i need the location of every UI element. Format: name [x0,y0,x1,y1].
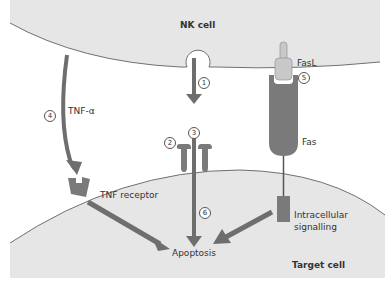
perforin-pore-left [177,144,191,172]
tnf-receptor [68,177,90,197]
step-2-marker: 2 [164,137,176,149]
tnf-receptor-label: TNF receptor [100,190,158,201]
fas-label: Fas [302,137,317,148]
intracellular-signalling-box [277,196,290,222]
fas-receptor [269,75,298,156]
step-6-marker: 6 [199,207,211,219]
target-cell-label: Target cell [292,260,345,271]
tnf-alpha-label: TNF-α [68,106,95,117]
perforin-pore-right [198,144,212,172]
fasl-head [275,58,292,80]
diagram-canvas [0,0,389,283]
perforin-arrowhead [186,94,202,104]
intracellular-label-line1: Intracellular [294,210,348,221]
step-4-marker: 4 [44,110,56,122]
step-1-marker: 1 [198,77,210,89]
tnf-alpha-arrowhead [66,160,82,175]
fasl-stalk [280,42,287,60]
step-3-marker: 3 [188,127,200,139]
nk-cell-label: NK cell [180,20,215,31]
fasl-label: FasL [297,58,317,69]
intracellular-label-line2: signalling [294,222,337,233]
step-5-marker: 5 [298,72,310,84]
apoptosis-label: Apoptosis [172,248,216,259]
